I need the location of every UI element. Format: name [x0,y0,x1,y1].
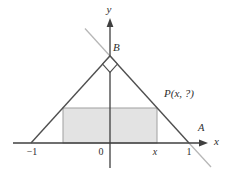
tick-label-neg1: −1 [27,147,38,157]
x-axis-arrow-icon [199,140,208,147]
point-p-label: P(x, ?) [164,88,194,99]
tick-label-x: x [153,147,157,157]
origin-label: 0 [99,147,104,157]
tick-label-1: 1 [187,147,192,157]
point-b-label: B [113,42,120,53]
line-ab-extension-upper [85,29,110,57]
x-axis-label: x [214,136,219,147]
y-axis-arrow-icon [107,18,114,27]
point-a-label: A [198,123,204,134]
line-ab-extension-lower [189,143,211,167]
geometry-diagram: y B P(x, ?) A x −1 0 x 1 [0,0,227,179]
right-angle-marker [103,56,118,72]
y-axis-label: y [107,4,112,15]
